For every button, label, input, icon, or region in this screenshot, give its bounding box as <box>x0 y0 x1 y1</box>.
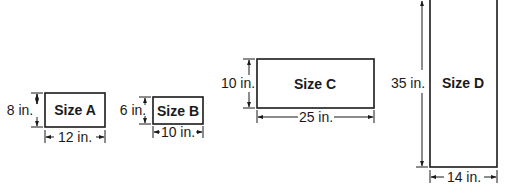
shape-size-a: Size A 8 in. 12 in. <box>7 93 105 145</box>
shape-size-d: Size D 35 in. 14 in. <box>391 0 497 185</box>
shape-size-c: Size C 10 in. 25 in. <box>221 59 374 125</box>
size-c-height-label: 10 in. <box>221 75 255 91</box>
size-a-height-label: 8 in. <box>7 102 33 118</box>
size-d-name: Size D <box>442 75 484 91</box>
size-c-width-label: 25 in. <box>299 109 333 125</box>
size-diagram: Size A 8 in. 12 in. Size B 6 in. 10 in. … <box>0 0 518 192</box>
size-c-name: Size C <box>294 76 336 92</box>
shape-size-b: Size B 6 in. 10 in. <box>120 97 203 140</box>
size-d-height-label: 35 in. <box>391 75 425 91</box>
size-b-name: Size B <box>157 103 199 119</box>
size-b-height-label: 6 in. <box>120 102 146 118</box>
size-a-name: Size A <box>54 102 96 118</box>
size-a-width-label: 12 in. <box>58 129 92 145</box>
size-d-width-label: 14 in. <box>447 169 481 185</box>
size-b-width-label: 10 in. <box>161 124 195 140</box>
